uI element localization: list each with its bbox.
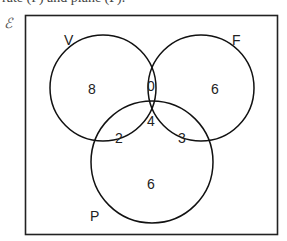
set-label-f: F xyxy=(232,32,241,48)
venn-diagram: ℰ V F P 8 0 6 4 2 3 6 xyxy=(0,0,287,241)
region-v-f-p: 4 xyxy=(147,113,155,129)
region-p-only: 6 xyxy=(147,176,155,192)
region-v-only: 8 xyxy=(88,81,96,97)
region-v-and-f-only: 0 xyxy=(147,78,155,94)
region-f-only: 6 xyxy=(211,81,219,97)
set-label-p: P xyxy=(90,208,99,224)
universal-set-symbol: ℰ xyxy=(4,15,14,31)
region-v-and-p-only: 2 xyxy=(115,130,123,146)
set-label-v: V xyxy=(64,32,74,48)
region-f-and-p-only: 3 xyxy=(178,130,186,146)
